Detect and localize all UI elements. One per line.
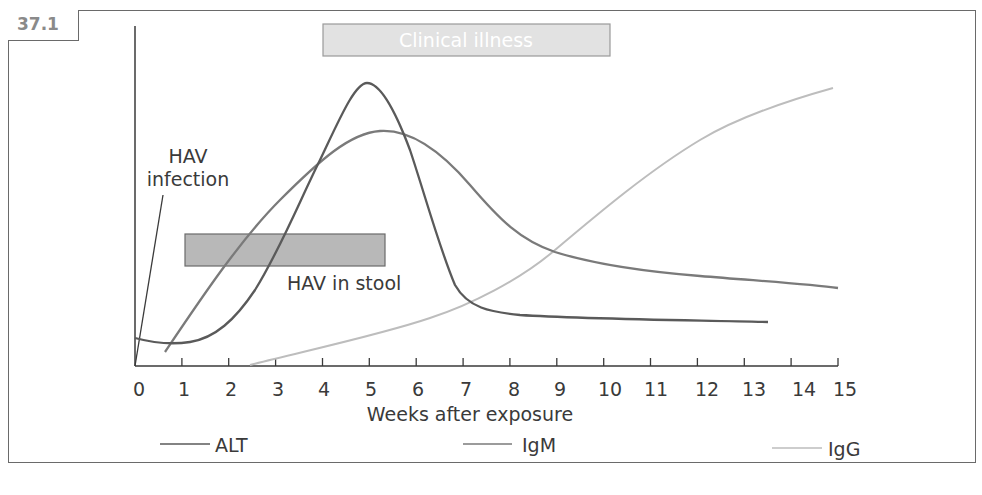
tick-label: 6 <box>412 378 424 400</box>
tick-label: 14 <box>792 378 816 400</box>
hav-infection-label-line2: infection <box>147 168 230 190</box>
clinical-illness-label: Clinical illness <box>399 29 533 51</box>
tick-label: 7 <box>460 378 472 400</box>
tick-label: 3 <box>272 378 284 400</box>
tick-label: 9 <box>554 378 566 400</box>
tick-label: 0 <box>133 378 145 400</box>
clinical-illness-bar: Clinical illness <box>323 24 610 56</box>
axes: 0 1 2 3 4 5 6 7 8 9 10 11 12 13 14 15 We… <box>133 26 857 425</box>
tick-label: 4 <box>318 378 330 400</box>
x-axis-ticks <box>182 358 838 366</box>
x-axis-title: Weeks after exposure <box>367 403 573 425</box>
hav-infection-label-line1: HAV <box>168 145 207 167</box>
tick-label: 12 <box>695 378 719 400</box>
legend-label-igm: IgM <box>522 434 556 456</box>
legend-label-igg: IgG <box>828 438 860 460</box>
tick-label: 8 <box>508 378 520 400</box>
chart-canvas: Clinical illness 0 1 2 <box>0 0 982 495</box>
legend-label-alt: ALT <box>215 434 248 456</box>
tick-label: 5 <box>365 378 377 400</box>
legend: ALT IgM IgG <box>160 434 860 460</box>
legend-item-igg: IgG <box>772 438 860 460</box>
alt-curve <box>135 83 768 343</box>
tick-label: 10 <box>598 378 622 400</box>
x-axis-tick-labels: 0 1 2 3 4 5 6 7 8 9 10 11 12 13 14 15 <box>133 378 857 400</box>
tick-label: 13 <box>742 378 766 400</box>
legend-item-igm: IgM <box>463 434 556 456</box>
tick-label: 15 <box>833 378 857 400</box>
legend-item-alt: ALT <box>160 434 248 456</box>
hav-in-stool-label: HAV in stool <box>287 272 401 294</box>
igg-curve <box>250 88 833 365</box>
tick-label: 2 <box>225 378 237 400</box>
tick-label: 1 <box>178 378 190 400</box>
tick-label: 11 <box>644 378 668 400</box>
hav-in-stool-bar <box>185 234 385 266</box>
